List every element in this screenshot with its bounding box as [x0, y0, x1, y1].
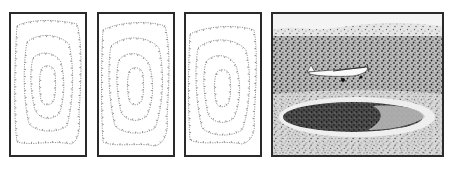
contour-map-3 — [186, 14, 260, 155]
contour-map-panel-3 — [184, 12, 262, 157]
contour-map-panel-2 — [97, 12, 175, 157]
crater-illustration-panel — [271, 12, 444, 157]
contour-map-1 — [11, 14, 85, 155]
contour-map-2 — [99, 14, 173, 155]
contour-map-panel-1 — [9, 12, 87, 157]
crater-illustration — [273, 14, 442, 155]
